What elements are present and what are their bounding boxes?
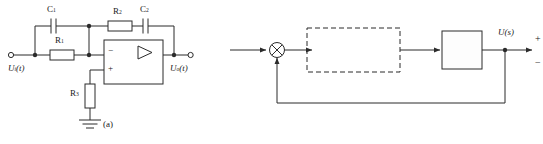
r2-body (108, 21, 132, 31)
plant-block-outline (442, 31, 482, 69)
r1-body (50, 50, 74, 60)
pid-block-outline (307, 28, 400, 72)
panel-a-opamp-circuit: C1 R1 R2 C2 R3 − + Ui(t) Uo(t) (a) (0, 0, 272, 144)
output-terminal (188, 52, 193, 57)
panel-a-schematic (0, 0, 272, 144)
figure-container: C1 R1 R2 C2 R3 − + Ui(t) Uo(t) (a) (0, 0, 543, 144)
input-terminal (8, 52, 13, 57)
opamp-body (104, 40, 163, 84)
r3-body (85, 84, 95, 108)
panel-b-schematic (272, 0, 543, 144)
output-node (172, 53, 176, 57)
panel-b-block-diagram: U(s) + − E(s) Kp ( 1 + 1 Tis + Tds ) C(s… (272, 0, 543, 144)
